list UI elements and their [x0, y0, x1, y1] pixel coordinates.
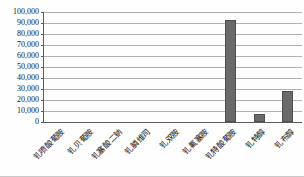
y-tick-mark [41, 89, 44, 90]
gridline [44, 111, 302, 112]
y-tick-mark [41, 23, 44, 24]
y-tick-mark [41, 122, 44, 123]
bar-钆特醇 [254, 114, 265, 122]
x-axis-category-label: 钆布醇 [273, 127, 296, 150]
x-axis-category-label: 钆双胺 [158, 127, 181, 150]
gridline [44, 34, 302, 35]
bar-钆布醇 [282, 91, 293, 122]
y-tick-mark [41, 100, 44, 101]
x-axis-category-label: 钆喷酸葡胺 [32, 127, 67, 162]
y-tick-mark [41, 67, 44, 68]
y-axis-tick-label: 20,000 [0, 96, 39, 104]
bar-chart-figure: 100,00090,00080,00070,00060,00050,00040,… [0, 0, 304, 177]
gridline [44, 56, 302, 57]
y-tick-mark [41, 12, 44, 13]
y-axis-tick-label: 10,000 [0, 107, 39, 115]
gridline [44, 89, 302, 90]
y-axis-tick-label: 50,000 [0, 63, 39, 71]
x-axis-category-label: 钆贝葡胺 [66, 127, 95, 156]
gridline [44, 45, 302, 46]
x-axis-category-label: 钆特醇 [244, 127, 267, 150]
x-axis-category-label: 钆膦维司 [124, 127, 153, 156]
y-axis-tick-label: 80,000 [0, 30, 39, 38]
y-axis-tick-label: 90,000 [0, 19, 39, 27]
y-tick-mark [41, 56, 44, 57]
plot-area [44, 12, 302, 122]
y-axis-tick-label: 60,000 [0, 52, 39, 60]
gridline [44, 23, 302, 24]
gridline [44, 12, 302, 13]
y-tick-mark [41, 34, 44, 35]
y-tick-mark [41, 111, 44, 112]
y-axis-tick-label: 70,000 [0, 41, 39, 49]
gridline [44, 100, 302, 101]
gridline [44, 67, 302, 68]
y-axis-tick-label: 100,000 [0, 8, 39, 16]
y-axis-tick-label: 30,000 [0, 85, 39, 93]
x-axis-line [44, 122, 302, 123]
bar-钆特酸葡胺 [225, 20, 236, 122]
y-tick-mark [41, 45, 44, 46]
y-axis-tick-label: 0 [0, 118, 39, 126]
y-tick-mark [41, 78, 44, 79]
page-divider-line [0, 176, 304, 177]
y-axis-tick-label: 40,000 [0, 74, 39, 82]
gridline [44, 78, 302, 79]
